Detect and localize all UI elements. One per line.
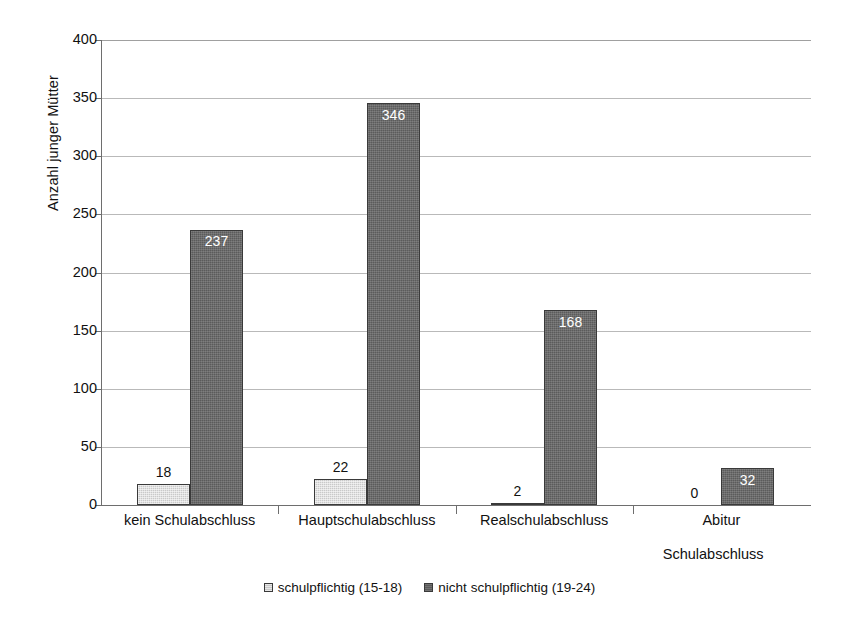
legend-item-schulpflichtig: schulpflichtig (15-18) xyxy=(264,580,403,595)
x-axis-category-label: Realschulabschluss xyxy=(456,512,633,528)
bar xyxy=(544,310,597,505)
y-axis-tick-label: 300 xyxy=(37,147,97,163)
x-axis-category-label: Hauptschulabschluss xyxy=(278,512,455,528)
gridline xyxy=(102,40,811,41)
gridline xyxy=(102,156,811,157)
chart-legend: schulpflichtig (15-18) nicht schulpflich… xyxy=(0,580,859,595)
bar-value-label: 237 xyxy=(190,233,243,249)
y-axis-tick-label: 50 xyxy=(37,438,97,454)
bar-value-label: 2 xyxy=(491,483,544,499)
bar-value-label: 22 xyxy=(314,459,367,475)
y-axis-tick-label: 0 xyxy=(37,496,97,512)
x-axis-category-label: Abitur xyxy=(633,512,810,528)
bar-value-label: 0 xyxy=(668,485,721,501)
y-axis-tick-label: 150 xyxy=(37,322,97,338)
y-axis-tick-label: 400 xyxy=(37,31,97,47)
y-axis-tick-label: 100 xyxy=(37,380,97,396)
bar xyxy=(491,503,544,505)
legend-label: nicht schulpflichtig (19-24) xyxy=(438,580,595,595)
x-axis-category-label: kein Schulabschluss xyxy=(101,512,278,528)
bar xyxy=(367,103,420,505)
gridline xyxy=(102,98,811,99)
legend-item-nicht-schulpflichtig: nicht schulpflichtig (19-24) xyxy=(424,580,595,595)
x-axis-title: Schulabschluss xyxy=(663,546,764,562)
bar-chart: Anzahl junger Mütter 0501001502002503003… xyxy=(0,0,859,633)
legend-label: schulpflichtig (15-18) xyxy=(278,580,403,595)
y-axis-tick-label: 250 xyxy=(37,205,97,221)
bar xyxy=(137,484,190,505)
bar-value-label: 168 xyxy=(544,314,597,330)
y-axis-tick-label: 200 xyxy=(37,264,97,280)
bar-value-label: 32 xyxy=(721,472,774,488)
gridline xyxy=(102,214,811,215)
bar-value-label: 346 xyxy=(367,107,420,123)
legend-swatch-dark-icon xyxy=(424,583,433,592)
bar xyxy=(314,479,367,505)
y-axis-title: Anzahl junger Mütter xyxy=(45,28,61,258)
bar xyxy=(190,230,243,506)
legend-swatch-light-icon xyxy=(264,583,273,592)
plot-area: 050100150200250300350400 182372234621680… xyxy=(101,40,810,505)
y-axis-tick-label: 350 xyxy=(37,89,97,105)
bar-value-label: 18 xyxy=(137,464,190,480)
